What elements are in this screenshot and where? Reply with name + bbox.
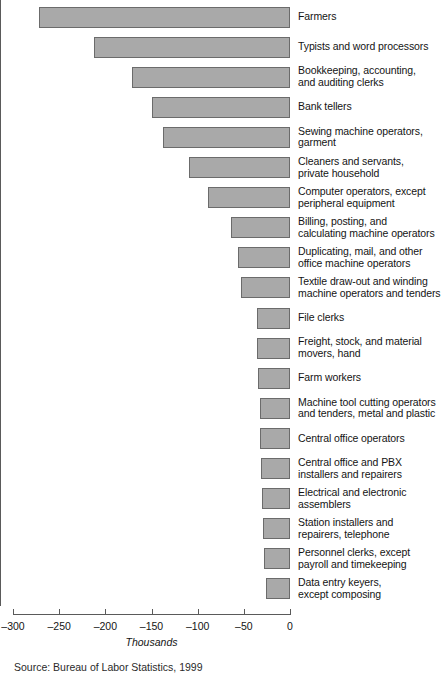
table-row: Bookkeeping, accounting, and auditing cl… (0, 62, 446, 92)
table-row: Station installers and repairers, teleph… (0, 514, 446, 544)
table-row: Typists and word processors (0, 32, 446, 62)
bar-category-label: Cleaners and servants, private household (298, 156, 404, 180)
bar-category-label: Farmers (298, 11, 336, 23)
bar-category-label: Sewing machine operators, garment (298, 126, 423, 150)
bar-rows: FarmersTypists and word processorsBookke… (0, 0, 446, 606)
x-axis-tick-label: –200 (94, 620, 117, 632)
bar-category-label: Data entry keyers, except composing (298, 577, 381, 601)
x-axis-tick-label: –100 (186, 620, 209, 632)
x-axis-tick (13, 609, 14, 614)
bar-category-label: Electrical and electronic assemblers (298, 487, 406, 511)
bar-category-label: Bookkeeping, accounting, and auditing cl… (298, 65, 416, 89)
bar (163, 127, 290, 148)
bar (258, 368, 290, 389)
x-axis-tick (290, 609, 291, 614)
bar-category-label: Personnel clerks, except payroll and tim… (298, 547, 410, 571)
table-row: Textile draw-out and winding machine ope… (0, 273, 446, 303)
bar (241, 277, 290, 298)
x-axis-line (13, 614, 291, 615)
table-row: Farmers (0, 2, 446, 32)
bar (266, 578, 290, 599)
bar-category-label: Computer operators, except peripheral eq… (298, 186, 426, 210)
table-row: Cleaners and servants, private household (0, 153, 446, 183)
x-axis-tick-label: –50 (235, 620, 253, 632)
bar-category-label: Bank tellers (298, 101, 352, 113)
table-row: Computer operators, except peripheral eq… (0, 183, 446, 213)
bar-category-label: Duplicating, mail, and other office mach… (298, 246, 422, 270)
table-row: Personnel clerks, except payroll and tim… (0, 544, 446, 574)
bar-category-label: Textile draw-out and winding machine ope… (298, 276, 440, 300)
bar-category-label: Central office operators (298, 433, 405, 445)
bar (208, 187, 290, 208)
bar (152, 97, 291, 118)
bar-category-label: Machine tool cutting operators and tende… (298, 397, 436, 421)
source-note: Source: Bureau of Labor Statistics, 1999 (14, 661, 203, 673)
table-row: Sewing machine operators, garment (0, 122, 446, 152)
table-row: Bank tellers (0, 92, 446, 122)
bar (261, 458, 290, 479)
x-axis-tick-label: 0 (287, 620, 293, 632)
bar (264, 548, 290, 569)
bar-category-label: Farm workers (298, 372, 361, 384)
plot-area: FarmersTypists and word processorsBookke… (0, 0, 446, 606)
table-row: Electrical and electronic assemblers (0, 484, 446, 514)
x-axis-tick-label: –250 (47, 620, 70, 632)
table-row: Machine tool cutting operators and tende… (0, 393, 446, 423)
bar-category-label: Freight, stock, and material movers, han… (298, 336, 422, 360)
x-axis-tick-label: –150 (140, 620, 163, 632)
bar (39, 7, 290, 28)
bar (94, 37, 290, 58)
x-axis-title: Thousands (13, 636, 290, 648)
table-row: Freight, stock, and material movers, han… (0, 333, 446, 363)
bar (257, 308, 290, 329)
x-axis-tick-label: –300 (1, 620, 24, 632)
x-axis-tick (244, 609, 245, 614)
bar-category-label: Billing, posting, and calculating machin… (298, 216, 435, 240)
table-row: Data entry keyers, except composing (0, 574, 446, 604)
x-axis-tick (59, 609, 60, 614)
bar (257, 338, 290, 359)
bar (189, 157, 290, 178)
table-row: Billing, posting, and calculating machin… (0, 213, 446, 243)
table-row: Central office and PBX installers and re… (0, 454, 446, 484)
bar (132, 67, 290, 88)
bar-category-label: File clerks (298, 312, 344, 324)
bar-category-label: Station installers and repairers, teleph… (298, 517, 393, 541)
x-axis-tick (105, 609, 106, 614)
table-row: Central office operators (0, 423, 446, 453)
bar (260, 428, 290, 449)
x-axis-tick (152, 609, 153, 614)
x-axis-tick (198, 609, 199, 614)
bar (260, 398, 290, 419)
table-row: Duplicating, mail, and other office mach… (0, 243, 446, 273)
bar (231, 217, 290, 238)
bar (263, 518, 290, 539)
bar-category-label: Central office and PBX installers and re… (298, 457, 402, 481)
bar-category-label: Typists and word processors (298, 41, 428, 53)
bar (262, 488, 290, 509)
table-row: Farm workers (0, 363, 446, 393)
table-row: File clerks (0, 303, 446, 333)
bar (238, 247, 290, 268)
